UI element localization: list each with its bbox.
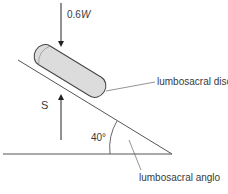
angle-value-label: 40° <box>91 132 106 143</box>
force-bottom-label: S <box>41 99 48 111</box>
angle-leader-line <box>129 140 141 170</box>
disc-leader-line <box>106 82 155 91</box>
angle-arc <box>110 121 117 154</box>
lumbosacral-diagram: 0.6W S 40° lumbosacral disc lumbosacral … <box>0 0 228 194</box>
force-top-label: 0.6W <box>67 9 92 20</box>
angle-name-label: lumbosacral anglo <box>139 172 221 183</box>
disc-label: lumbosacral disc <box>157 76 228 87</box>
